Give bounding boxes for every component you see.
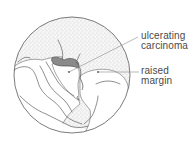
label-raised-margin: raised margin [141, 66, 172, 86]
leader-dot-raised-margin [97, 71, 99, 73]
raised-margin-mound [80, 69, 132, 140]
leader-dot-ulcerating-carcinoma [68, 71, 70, 73]
label-ulcerating-carcinoma: ulcerating carcinoma [141, 31, 188, 51]
mucosa-background [10, 12, 135, 140]
label-raised-margin-line2: margin [141, 76, 172, 86]
label-ulcerating-carcinoma-line2: carcinoma [141, 41, 188, 51]
